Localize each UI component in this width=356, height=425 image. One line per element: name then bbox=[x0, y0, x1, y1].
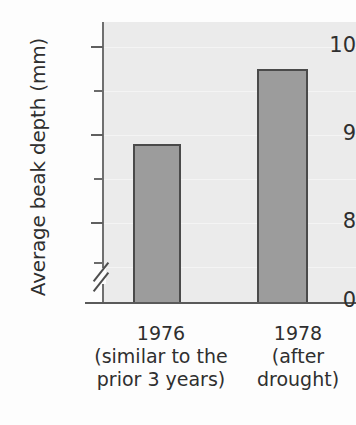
y-minor-tick-9-5 bbox=[94, 90, 103, 92]
y-tick-10 bbox=[91, 46, 103, 48]
axis-break-icon bbox=[88, 262, 114, 292]
y-tick-label-9: 9 bbox=[314, 123, 356, 144]
gridline bbox=[103, 91, 356, 92]
y-minor-tick-8-5 bbox=[94, 178, 103, 180]
y-tick-9 bbox=[91, 134, 103, 136]
bar-chart-figure: Average beak depth (mm) 10 9 8 0 1976 (s… bbox=[0, 0, 356, 425]
y-tick-label-10: 10 bbox=[314, 35, 356, 56]
x-category-label-1978: 1978 (after drought) bbox=[240, 322, 356, 391]
x-category-label-1976: 1976 (similar to the prior 3 years) bbox=[75, 322, 247, 391]
y-tick-label-8: 8 bbox=[314, 211, 356, 232]
y-tick-label-0: 0 bbox=[314, 290, 356, 311]
bar-1978[interactable] bbox=[257, 69, 308, 302]
y-axis-line bbox=[102, 22, 104, 303]
plot-area bbox=[103, 22, 356, 302]
y-axis-title: Average beak depth (mm) bbox=[26, 37, 60, 297]
bar-1976[interactable] bbox=[133, 144, 181, 302]
axis-break-slash bbox=[93, 272, 109, 292]
y-tick-8 bbox=[91, 222, 103, 224]
